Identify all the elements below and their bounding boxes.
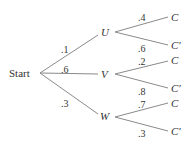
leaf-u-cprime: C′ (171, 40, 181, 51)
leaf-v-c: C (171, 55, 178, 66)
prob-u-c: .4 (138, 12, 146, 23)
node-u: U (101, 27, 109, 38)
node-start: Start (9, 68, 30, 79)
edge-start-u (40, 35, 98, 73)
node-w: W (100, 111, 109, 122)
prob-u-cprime: .6 (138, 43, 146, 54)
leaf-v-cprime: C′ (171, 83, 181, 94)
prob-start-v: .6 (61, 64, 69, 75)
edge-start-v (40, 73, 98, 74)
leaf-w-cprime: C′ (171, 126, 181, 137)
prob-w-cprime: .3 (138, 128, 146, 139)
prob-v-c: .2 (138, 56, 146, 67)
leaf-u-c: C (171, 12, 178, 23)
node-v: V (101, 69, 108, 80)
prob-start-u: .1 (61, 44, 69, 55)
edge-start-w (40, 73, 98, 114)
prob-start-w: .3 (61, 98, 69, 109)
prob-w-c: .7 (138, 99, 146, 110)
prob-v-cprime: .8 (138, 86, 146, 97)
leaf-w-c: C (171, 98, 178, 109)
